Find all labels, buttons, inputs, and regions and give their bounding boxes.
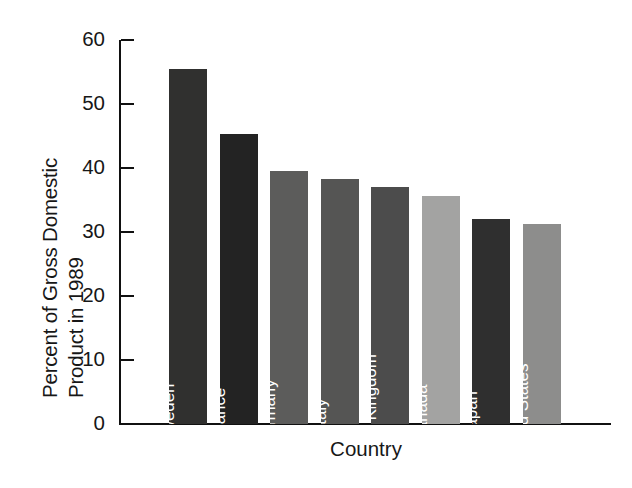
bar-category-label: Germany bbox=[272, 379, 289, 424]
bar: France bbox=[220, 134, 258, 424]
x-axis-title: Country bbox=[121, 437, 611, 461]
bar-category-label: United Kingdom bbox=[373, 354, 390, 424]
bar-category-label: United States bbox=[525, 364, 542, 424]
bar-category-label: Italy bbox=[323, 399, 340, 424]
bar: Sweden bbox=[169, 69, 207, 424]
plot-area: SwedenFranceGermanyItalyUnited KingdomCa… bbox=[121, 40, 611, 424]
bar: United Kingdom bbox=[371, 187, 409, 424]
bar: Canada bbox=[422, 196, 460, 424]
y-axis-tick-label: 30 bbox=[82, 219, 105, 243]
y-axis-tick-label: 60 bbox=[82, 27, 105, 51]
bar: Italy bbox=[321, 179, 359, 424]
bar: United States bbox=[523, 224, 561, 424]
y-axis-tick-label: 40 bbox=[82, 155, 105, 179]
bar-chart-figure: Percent of Gross Domestic Product in 198… bbox=[0, 0, 632, 488]
y-axis-tick-label: 0 bbox=[94, 411, 105, 435]
bar-category-label: Canada bbox=[424, 385, 441, 424]
y-axis-tick-label: 10 bbox=[82, 347, 105, 371]
y-axis-tick-label: 20 bbox=[82, 283, 105, 307]
bar: Japan bbox=[472, 219, 510, 424]
bar-category-label: France bbox=[222, 388, 239, 424]
bar: Germany bbox=[270, 171, 308, 424]
bar-category-label: Sweden bbox=[171, 384, 188, 424]
bar-category-label: Japan bbox=[474, 391, 491, 424]
y-axis-tick-label: 50 bbox=[82, 91, 105, 115]
